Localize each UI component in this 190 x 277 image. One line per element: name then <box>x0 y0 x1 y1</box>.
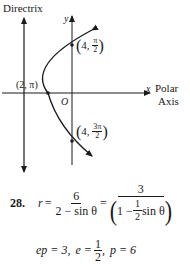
polar-graph-figure: Directrix y (2, π) O x Polar Axis ( 4, π… <box>0 0 190 175</box>
equation-lhs: r <box>38 196 43 211</box>
vertex-point <box>46 91 50 95</box>
fraction-1: 6 2 − sin θ <box>53 189 99 218</box>
problem-number: 28. <box>10 196 25 211</box>
e-fraction: 1 2 <box>94 238 102 263</box>
point-bottom <box>70 139 74 143</box>
x-axis-label: x <box>146 84 150 94</box>
directrix-label: Directrix <box>3 3 43 14</box>
fraction-2: 3 ( 1 − 1 2 sin θ ) <box>108 182 174 224</box>
equation-line-2: ep = 3, e = 1 2 , p = 6 <box>36 238 136 263</box>
polar-axis-label-line2: Axis <box>158 96 179 107</box>
point-top-label: ( 4, π 2 ) <box>76 37 104 54</box>
ep-value: ep = 3, <box>36 243 70 258</box>
p-value: p = 6 <box>110 243 136 258</box>
polar-axis-label-line1: Polar <box>155 83 178 94</box>
point-top <box>70 43 74 47</box>
equation-line-1: r = 6 2 − sin θ = 3 ( 1 − 1 2 sin θ ) <box>38 182 174 224</box>
theta-fraction: 3π 2 <box>92 123 102 140</box>
point-bottom-label: ( 4, 3π 2 ) <box>76 123 108 140</box>
origin-label: O <box>61 97 68 107</box>
vertex-label: (2, π) <box>16 80 38 90</box>
y-axis-label: y <box>64 14 68 24</box>
e-lhs: e = <box>75 243 91 258</box>
inner-fraction: 1 2 <box>133 198 142 223</box>
